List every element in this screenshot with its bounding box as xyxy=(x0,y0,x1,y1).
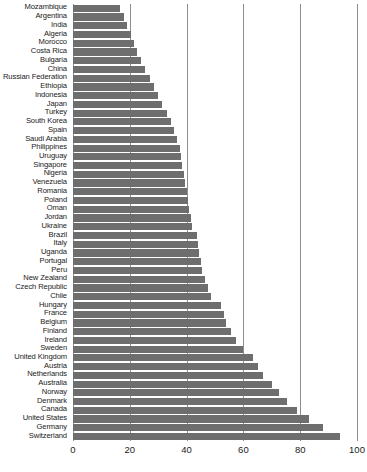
bar[interactable] xyxy=(73,101,162,108)
bar[interactable] xyxy=(73,40,134,47)
bar-row[interactable] xyxy=(73,432,357,441)
bar[interactable] xyxy=(73,415,309,422)
bar-row[interactable] xyxy=(73,56,357,65)
bar-row[interactable] xyxy=(73,4,357,13)
bar-row[interactable] xyxy=(73,83,357,92)
bar-row[interactable] xyxy=(73,266,357,275)
bar[interactable] xyxy=(73,110,167,117)
bar[interactable] xyxy=(73,424,323,431)
bar[interactable] xyxy=(73,328,231,335)
bar[interactable] xyxy=(73,311,224,318)
bar-row[interactable] xyxy=(73,118,357,127)
bar-row[interactable] xyxy=(73,354,357,363)
bar-row[interactable] xyxy=(73,336,357,345)
bar-row[interactable] xyxy=(73,153,357,162)
bar[interactable] xyxy=(73,372,263,379)
bar-row[interactable] xyxy=(73,135,357,144)
bar[interactable] xyxy=(73,363,258,370)
bar-row[interactable] xyxy=(73,21,357,30)
bar[interactable] xyxy=(73,214,191,221)
bar[interactable] xyxy=(73,407,297,414)
bar[interactable] xyxy=(73,31,131,38)
bar[interactable] xyxy=(73,145,180,152)
bar-row[interactable] xyxy=(73,319,357,328)
bar-row[interactable] xyxy=(73,109,357,118)
bar-row[interactable] xyxy=(73,179,357,188)
bar-row[interactable] xyxy=(73,257,357,266)
bar[interactable] xyxy=(73,92,158,99)
bar[interactable] xyxy=(73,241,198,248)
bar-row[interactable] xyxy=(73,284,357,293)
bar[interactable] xyxy=(73,48,137,55)
bar-row[interactable] xyxy=(73,48,357,57)
bar[interactable] xyxy=(73,57,141,64)
bar[interactable] xyxy=(73,179,185,186)
bar[interactable] xyxy=(73,389,279,396)
bar-row[interactable] xyxy=(73,126,357,135)
bar[interactable] xyxy=(73,5,120,12)
bar-row[interactable] xyxy=(73,249,357,258)
bar-row[interactable] xyxy=(73,188,357,197)
bar[interactable] xyxy=(73,267,202,274)
bar-row[interactable] xyxy=(73,275,357,284)
bar[interactable] xyxy=(73,206,189,213)
bar[interactable] xyxy=(73,197,188,204)
bar[interactable] xyxy=(73,83,154,90)
bar-row[interactable] xyxy=(73,74,357,83)
bar[interactable] xyxy=(73,162,182,169)
bar-row[interactable] xyxy=(73,91,357,100)
bar[interactable] xyxy=(73,127,174,134)
bar-row[interactable] xyxy=(73,65,357,74)
bar-row[interactable] xyxy=(73,424,357,433)
bar-row[interactable] xyxy=(73,301,357,310)
bar-row[interactable] xyxy=(73,231,357,240)
bar-row[interactable] xyxy=(73,380,357,389)
bar[interactable] xyxy=(73,249,199,256)
bar-row[interactable] xyxy=(73,161,357,170)
bar-row[interactable] xyxy=(73,39,357,48)
bar-row[interactable] xyxy=(73,292,357,301)
bar-row[interactable] xyxy=(73,223,357,232)
bar-row[interactable] xyxy=(73,240,357,249)
bar[interactable] xyxy=(73,319,226,326)
bar[interactable] xyxy=(73,22,127,29)
bar[interactable] xyxy=(73,346,243,353)
bar-row[interactable] xyxy=(73,415,357,424)
bar[interactable] xyxy=(73,354,253,361)
bar-row[interactable] xyxy=(73,13,357,22)
bar-row[interactable] xyxy=(73,406,357,415)
bar-row[interactable] xyxy=(73,170,357,179)
bar-row[interactable] xyxy=(73,100,357,109)
bar-row[interactable] xyxy=(73,345,357,354)
bar[interactable] xyxy=(73,302,221,309)
bar[interactable] xyxy=(73,433,340,440)
bar[interactable] xyxy=(73,75,150,82)
bar-row[interactable] xyxy=(73,397,357,406)
bar[interactable] xyxy=(73,171,184,178)
bar[interactable] xyxy=(73,293,211,300)
bar-row[interactable] xyxy=(73,196,357,205)
bar-row[interactable] xyxy=(73,144,357,153)
bar[interactable] xyxy=(73,223,192,230)
bar-row[interactable] xyxy=(73,389,357,398)
bar[interactable] xyxy=(73,153,181,160)
bar[interactable] xyxy=(73,232,197,239)
bar-row[interactable] xyxy=(73,30,357,39)
bar[interactable] xyxy=(73,276,205,283)
bar-row[interactable] xyxy=(73,327,357,336)
bar-row[interactable] xyxy=(73,371,357,380)
bar[interactable] xyxy=(73,136,177,143)
bar[interactable] xyxy=(73,258,201,265)
bar[interactable] xyxy=(73,381,272,388)
bar-row[interactable] xyxy=(73,205,357,214)
bar[interactable] xyxy=(73,66,145,73)
bar[interactable] xyxy=(73,337,236,344)
bar[interactable] xyxy=(73,188,187,195)
bar-row[interactable] xyxy=(73,310,357,319)
bar-row[interactable] xyxy=(73,214,357,223)
bar[interactable] xyxy=(73,284,208,291)
bar-row[interactable] xyxy=(73,362,357,371)
bar[interactable] xyxy=(73,398,287,405)
bar[interactable] xyxy=(73,13,124,20)
bar[interactable] xyxy=(73,118,171,125)
